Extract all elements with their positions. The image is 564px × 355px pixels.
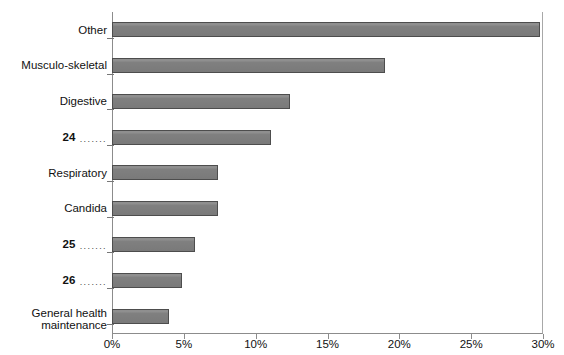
dot-leader: ....... bbox=[76, 240, 107, 253]
bar-row bbox=[112, 119, 543, 155]
bar bbox=[112, 237, 195, 252]
bar bbox=[112, 22, 540, 37]
category-label-text: Other bbox=[78, 24, 107, 37]
bar-row bbox=[112, 48, 543, 84]
bar-row bbox=[112, 227, 543, 263]
x-axis-tick-label: 30% bbox=[531, 338, 554, 350]
category-label-text: General health maintenance bbox=[32, 307, 107, 332]
category-label: Candida bbox=[0, 191, 110, 227]
dot-leader: ....... bbox=[76, 133, 107, 146]
bar-row bbox=[112, 191, 543, 227]
bar bbox=[112, 94, 290, 109]
bar bbox=[112, 201, 218, 216]
bar-row bbox=[112, 12, 543, 48]
category-axis-labels: OtherMusculo-skeletalDigestive24.......R… bbox=[0, 12, 110, 334]
category-label: Musculo-skeletal bbox=[0, 48, 110, 84]
x-axis-tick-label: 15% bbox=[316, 338, 339, 350]
x-axis-tick-labels: 0%5%10%15%20%25%30% bbox=[0, 338, 564, 355]
bar-row bbox=[112, 262, 543, 298]
bar bbox=[112, 58, 385, 73]
category-label: Respiratory bbox=[0, 155, 110, 191]
x-axis-tick-label: 20% bbox=[388, 338, 411, 350]
category-label: 25....... bbox=[0, 227, 110, 263]
category-label: Digestive bbox=[0, 84, 110, 120]
bar-row bbox=[112, 155, 543, 191]
category-label-text: Musculo-skeletal bbox=[21, 59, 107, 72]
category-label-text: 24 bbox=[62, 131, 75, 144]
bar-row bbox=[112, 84, 543, 120]
category-label-text: Respiratory bbox=[48, 167, 107, 180]
x-axis-tick-label: 10% bbox=[244, 338, 267, 350]
bar bbox=[112, 165, 218, 180]
bar-series bbox=[112, 12, 543, 334]
bar bbox=[112, 309, 169, 324]
x-axis-tick-label: 5% bbox=[176, 338, 193, 350]
category-label-text: 25 bbox=[62, 238, 75, 251]
x-axis-tick-label: 0% bbox=[104, 338, 121, 350]
category-label: Other bbox=[0, 12, 110, 48]
category-label-text: Candida bbox=[64, 202, 107, 215]
category-label-text: 26 bbox=[62, 274, 75, 287]
bar-row bbox=[112, 298, 543, 334]
category-label: 26....... bbox=[0, 262, 110, 298]
bar bbox=[112, 130, 271, 145]
bar bbox=[112, 273, 182, 288]
category-label: General health maintenance bbox=[0, 298, 110, 334]
bar-chart: OtherMusculo-skeletalDigestive24.......R… bbox=[0, 0, 564, 355]
category-label-text: Digestive bbox=[60, 95, 107, 108]
dot-leader: ....... bbox=[76, 276, 107, 289]
x-axis-tick-label: 25% bbox=[460, 338, 483, 350]
category-label: 24....... bbox=[0, 119, 110, 155]
